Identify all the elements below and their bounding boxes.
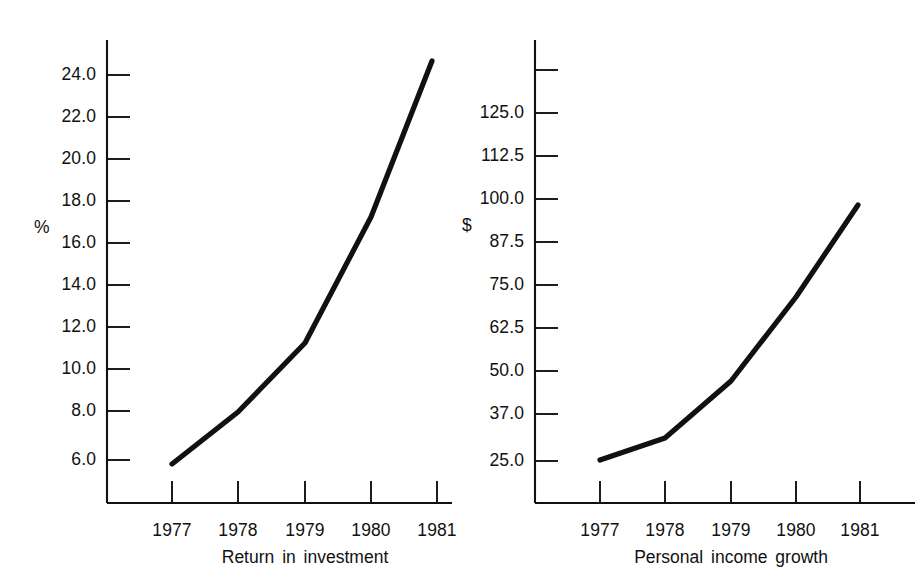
y-tick-label: 20.0 [28,150,96,168]
x-tick-label: 1978 [218,522,257,540]
y-tick-label: 62.5 [440,319,524,337]
x-tick-label: 1979 [285,522,324,540]
x-tick-label: 1979 [711,522,750,540]
chart-panel-personal-income-growth: 125.0 112.5 100.0 87.5 75.0 62.5 50.0 37… [440,0,921,581]
y-tick-marks [535,70,558,461]
data-line-personal-income-growth [600,205,858,460]
x-tick-label: 1977 [580,522,619,540]
y-tick-label: 10.0 [28,360,96,378]
y-tick-label: 24.0 [28,66,96,84]
x-tick-label: 1981 [840,522,879,540]
figure-canvas: 24.0 22.0 20.0 18.0 16.0 14.0 12.0 10.0 … [0,0,921,581]
y-tick-label: 22.0 [28,108,96,126]
y-tick-label: 37.0 [440,405,524,423]
y-tick-marks [107,75,130,460]
x-tick-label: 1978 [645,522,684,540]
y-tick-label: 25.0 [440,452,524,470]
y-tick-label: 6.0 [28,451,96,469]
x-tick-marks [172,481,437,503]
x-tick-label: 1980 [351,522,390,540]
x-tick-marks [600,481,860,503]
y-axis-unit-label: % [34,219,50,237]
x-tick-label: 1980 [776,522,815,540]
x-tick-label: 1977 [152,522,191,540]
y-tick-label: 125.0 [440,104,524,122]
y-tick-label: 50.0 [440,362,524,380]
data-line-return-on-investment [172,61,432,464]
y-tick-label: 12.0 [28,318,96,336]
y-axis-unit-label: $ [462,217,472,235]
chart-panel-return-on-investment: 24.0 22.0 20.0 18.0 16.0 14.0 12.0 10.0 … [0,0,460,581]
y-tick-label: 14.0 [28,276,96,294]
y-tick-label: 87.5 [440,233,524,251]
x-axis-caption: Return in investment [222,549,389,567]
y-tick-label: 18.0 [28,192,96,210]
y-tick-label: 8.0 [28,402,96,420]
y-tick-label: 112.5 [440,147,524,165]
x-axis-caption: Personal income growth [634,549,828,567]
y-tick-label: 75.0 [440,276,524,294]
y-tick-label: 100.0 [440,190,524,208]
